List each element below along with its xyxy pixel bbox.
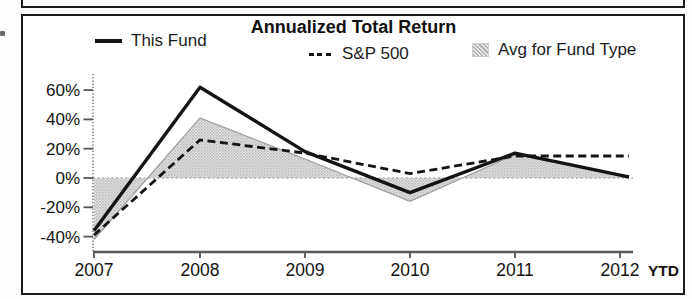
svg-text:2007: 2007: [75, 260, 114, 280]
legend-item-sp500: S&P 500: [309, 44, 409, 64]
legend-label-this-fund: This Fund: [131, 31, 207, 51]
svg-text:40%: 40%: [46, 110, 80, 129]
svg-text:60%: 60%: [46, 81, 80, 100]
gray-area-marker: [472, 43, 489, 57]
svg-text:2010: 2010: [391, 260, 430, 280]
svg-text:-20%: -20%: [40, 198, 80, 217]
svg-text:20%: 20%: [46, 140, 80, 159]
solid-line-marker: [95, 39, 122, 43]
dashed-line-marker: [309, 53, 333, 56]
legend-label-sp500: S&P 500: [342, 44, 409, 64]
legend-item-this-fund: This Fund: [95, 31, 207, 51]
legend-label-avg: Avg for Fund Type: [498, 40, 636, 60]
svg-text:2011: 2011: [496, 260, 534, 280]
svg-text:YTD: YTD: [648, 262, 679, 279]
legend-item-avg-fund-type: Avg for Fund Type: [472, 40, 636, 60]
svg-text:0%: 0%: [55, 169, 80, 188]
svg-text:-40%: -40%: [40, 228, 80, 247]
report-page: 60%40%20%0%-20%-40%200720082009201020112…: [0, 0, 692, 299]
svg-text:2009: 2009: [286, 260, 325, 280]
svg-text:2008: 2008: [181, 260, 220, 280]
svg-text:2012: 2012: [601, 260, 640, 280]
